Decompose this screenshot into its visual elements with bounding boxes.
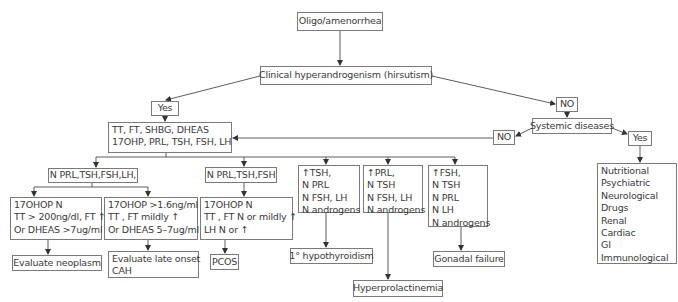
node-neoplasm-criteria: 17OHOP N TT > 200ng/dl, FT ↑ Or DHEAS >7… [10, 197, 102, 240]
node-yes-systemic: Yes [628, 131, 652, 146]
node-lab-tests: TT, FT, SHBG, DHEAS 17OHP, PRL, TSH, FSH… [108, 122, 232, 153]
high-prl-line-4: N androgens [367, 204, 419, 216]
high-prl-line-1: ↑PRL, [367, 167, 419, 179]
node-high-prl: ↑PRL, N TSH N FSH, LH N androgens [363, 165, 423, 213]
cause-nutritional: Nutritional [601, 165, 673, 177]
high-fsh-line-2: N TSH [432, 179, 484, 191]
cause-gi: GI [601, 239, 673, 251]
node-clinical-hyperandrogenism: Clinical hyperandrogenism (hirsutism) [260, 66, 432, 85]
node-systemic-causes: Nutritional Psychiatric Neurological Dru… [597, 163, 677, 264]
cause-drugs: Drugs [601, 202, 673, 214]
high-tsh-line-2: N PRL [302, 179, 356, 191]
cah-criteria-line-3: Or DHEAS 5–7ug/ml [108, 224, 194, 236]
high-prl-line-3: N FSH, LH [367, 192, 419, 204]
evaluate-cah-line-2: CAH [112, 265, 195, 277]
cause-psychiatric: Psychiatric [601, 177, 673, 189]
high-fsh-line-4: N LH [432, 204, 484, 216]
node-hyperprolactinemia: Hyperprolactinemia [353, 280, 443, 297]
high-fsh-line-1: ↑FSH, [432, 167, 484, 179]
node-oligo-amenorrhea: Oligo/amenorrhea [297, 12, 383, 31]
high-tsh-line-1: ↑TSH, [302, 167, 356, 179]
node-systemic-diseases: Systemic diseases [532, 118, 612, 134]
pcos-criteria-line-2: TT , FT N or mildly ↑ [204, 211, 289, 223]
high-fsh-line-3: N PRL [432, 192, 484, 204]
node-no-hirsutism: NO [556, 97, 578, 112]
node-normal-prl-tsh-fsh-lh: N PRL,TSH,FSH,LH, [48, 168, 138, 183]
high-fsh-line-5: N androgens [432, 217, 484, 229]
node-high-tsh: ↑TSH, N PRL N FSH, LH N androgens [298, 165, 360, 213]
node-evaluate-cah: Evaluate late onset CAH [108, 251, 199, 278]
cause-neurological: Neurological [601, 190, 673, 202]
cause-renal: Renal [601, 215, 673, 227]
pcos-criteria-line-1: 17OHOP N [204, 199, 289, 211]
node-pcos: PCOS [210, 254, 239, 270]
evaluate-cah-line-1: Evaluate late onset [112, 253, 195, 265]
lab-tests-line-2: 17OHP, PRL, TSH, FSH, LH [112, 136, 228, 148]
high-tsh-line-4: N androgens [302, 204, 356, 216]
pcos-criteria-line-3: LH N or ↑ [204, 224, 289, 236]
cause-immunological: Immunological [601, 252, 673, 264]
neoplasm-criteria-line-1: 17OHOP N [14, 199, 98, 211]
high-prl-line-2: N TSH [367, 179, 419, 191]
high-tsh-line-3: N FSH, LH [302, 192, 356, 204]
node-normal-prl-tsh-fsh: N PRL,TSH,FSH [205, 167, 277, 183]
node-cah-criteria: 17OHOP >1.6ng/ml TT , FT mildly ↑ Or DHE… [104, 197, 198, 240]
node-evaluate-neoplasm: Evaluate neoplasm [12, 255, 102, 271]
node-high-fsh: ↑FSH, N TSH N PRL N LH N androgens [428, 165, 488, 227]
cah-criteria-line-1: 17OHOP >1.6ng/ml [108, 199, 194, 211]
neoplasm-criteria-line-3: Or DHEAS >7ug/ml [14, 224, 98, 236]
node-yes-hirsutism: Yes [151, 101, 179, 116]
cause-cardiac: Cardiac [601, 227, 673, 239]
neoplasm-criteria-line-2: TT > 200ng/dl, FT ↑ [14, 211, 98, 223]
lab-tests-line-1: TT, FT, SHBG, DHEAS [112, 124, 228, 136]
node-no-systemic: NO [493, 130, 515, 145]
node-pcos-criteria: 17OHOP N TT , FT N or mildly ↑ LH N or ↑ [200, 197, 293, 240]
node-hypothyroidism: 1° hypothyroidism [290, 248, 373, 264]
cah-criteria-line-2: TT , FT mildly ↑ [108, 211, 194, 223]
node-gonadal-failure: Gonadal failure [433, 251, 505, 267]
